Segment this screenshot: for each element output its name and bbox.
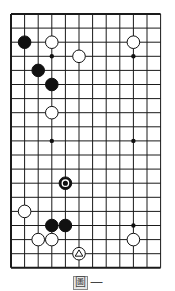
figure-label: 圖 [73,276,88,290]
star-point [131,139,135,143]
white-stone [46,106,59,119]
black-stone [59,219,72,232]
white-stone [32,233,45,246]
black-stone [32,64,45,77]
black-stone [46,219,59,232]
white-stone [18,205,31,218]
figure-caption: 圖一 [0,274,175,291]
star-point [131,223,135,227]
white-stone [127,233,140,246]
star-point [131,54,135,58]
white-stone [46,36,59,49]
star-point [50,54,54,58]
figure-number: 一 [90,275,103,290]
circle-mark-center [64,182,67,185]
black-stone [18,36,31,49]
black-stone [46,78,59,91]
white-stone [127,36,140,49]
white-stone [46,233,59,246]
white-stone [73,50,86,63]
go-board [0,0,175,275]
star-point [50,139,54,143]
